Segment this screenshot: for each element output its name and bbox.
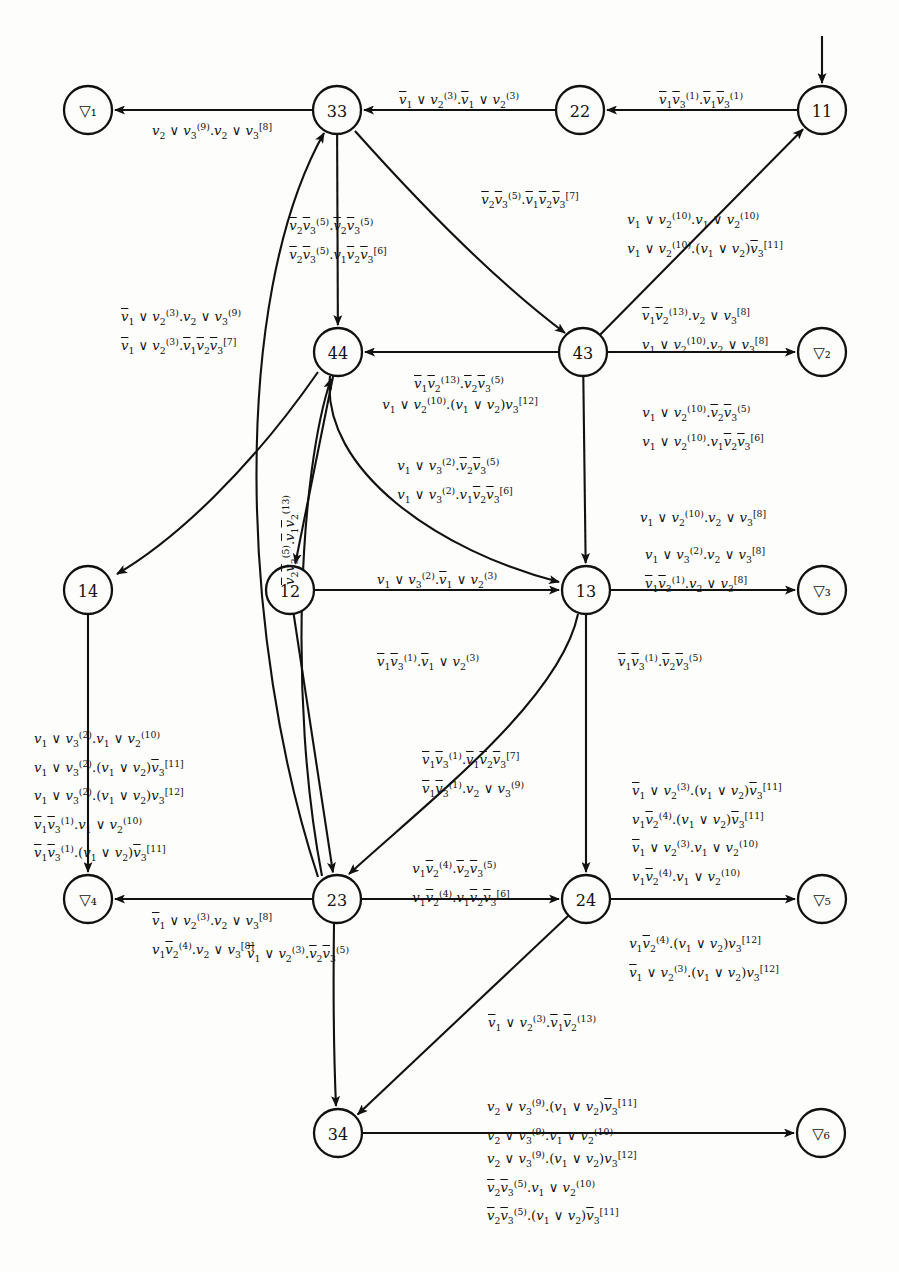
node-T3[interactable]: ▽₃	[798, 566, 846, 614]
label-line: v2v3(5).v1v2v3[7]	[481, 186, 578, 215]
label-line: v1 ∨ v2(3).v2v3(5)	[247, 940, 349, 969]
node-label: ▽₂	[813, 344, 831, 362]
label-edge-23-24: v1v2(4).v2v3(5)v1v2(4).v1v2v3[6]	[412, 855, 509, 912]
node-33[interactable]: 33	[313, 86, 361, 134]
label-line: v1 ∨ v3(2).(v1 ∨ v2)v3[12]	[34, 782, 184, 811]
label-line: v1 ∨ v3(2).v2v3(5)	[397, 452, 512, 481]
label-line: v1 ∨ v2(10).(v1 ∨ v2)v3[12]	[382, 391, 538, 420]
label-edge-13-23: v1v3(1).v1v2v3[7]v1v3(1).v2 ∨ v3(9)	[422, 746, 524, 803]
label-edge-23-34: v1 ∨ v2(3).v2v3(5)	[247, 940, 349, 969]
node-T6[interactable]: ▽₆	[797, 1109, 845, 1157]
label-line: v1v2(4).(v1 ∨ v2)v3[11]	[632, 806, 782, 835]
label-line: v1v3(1).v2 ∨ v3[8]	[645, 570, 765, 599]
label-line: v1 ∨ v2(3).v2 ∨ v3(9)	[121, 303, 241, 332]
node-label: 11	[812, 102, 832, 121]
label-line: v1 ∨ v3(2).v1v2v3[6]	[397, 481, 512, 510]
edge-12-23[interactable]	[294, 614, 333, 873]
label-line: v1 ∨ v2(3).(v1 ∨ v2)v3[11]	[632, 777, 782, 806]
label-edge-34-t6-upper: v2 ∨ v3(9).(v1 ∨ v2)v3[11]v2 ∨ v3(9).v1 …	[487, 1093, 637, 1150]
label-line: v1v3(1).v1v3(1)	[659, 86, 743, 115]
node-label: 33	[327, 102, 347, 121]
node-43[interactable]: 43	[559, 328, 607, 376]
label-edge-23-44: v1 ∨ v2(10).(v1 ∨ v2)v3[12]	[382, 391, 538, 420]
label-edge-11-22: v1v3(1).v1v3(1)	[659, 86, 743, 115]
label-edge-43-11: v1 ∨ v2(10).v1 ∨ v2(10)v1 ∨ v2(10).(v1 ∨…	[627, 206, 783, 263]
label-edge-43-13-upper: v1 ∨ v2(10).v2v3(5)v1 ∨ v2(10).v1v2v3[6]	[642, 399, 763, 456]
label-line: v1 ∨ v2(3).(v1 ∨ v2)v3[12]	[629, 959, 779, 988]
label-line: v1v2(4).v2v3(5)	[412, 855, 509, 884]
label-line: v1 ∨ v2(3).v1v2(13)	[488, 1009, 596, 1038]
node-13[interactable]: 13	[562, 566, 610, 614]
node-44[interactable]: 44	[314, 328, 362, 376]
label-edge-23-44-rotated: v2v3(5).v1v2(13)	[276, 495, 305, 585]
label-line: v1 ∨ v2(3).v2 ∨ v3[8]	[152, 907, 272, 936]
label-line: v1 ∨ v2(10).v1v2v3[6]	[642, 428, 763, 457]
node-T1[interactable]: ▽₁	[64, 86, 112, 134]
node-label: 24	[576, 891, 596, 910]
label-line: v2 ∨ v3(9).(v1 ∨ v2)v3[12]	[487, 1145, 637, 1174]
label-edge-34-t6-lower: v2 ∨ v3(9).(v1 ∨ v2)v3[12]v2v3(5).v1 ∨ v…	[487, 1145, 637, 1231]
node-T4[interactable]: ▽₄	[64, 875, 112, 923]
label-line: v2 ∨ v3(9).(v1 ∨ v2)v3[11]	[487, 1093, 637, 1122]
edge-43-13[interactable]	[583, 376, 585, 563]
label-line: v2v3(5).v2v3(5)	[289, 212, 386, 241]
label-line: v1 ∨ v2(3).v1 ∨ v2(10)	[632, 834, 782, 863]
label-line: v1 ∨ v3(2).v1 ∨ v2(10)	[34, 725, 184, 754]
label-line: v1v3(1).(v1 ∨ v2)v3[11]	[34, 839, 184, 868]
label-line: v1 ∨ v3(2).v1 ∨ v2(3)	[377, 566, 497, 595]
label-edge-33-44: v2v3(5).v2v3(5)v2v3(5).v1v2v3[6]	[289, 212, 386, 269]
label-line: v1v3(1).v2v3(5)	[618, 648, 702, 677]
label-line: v1v3(1).v1 ∨ v2(3)	[377, 648, 479, 677]
node-label: 14	[78, 582, 98, 601]
node-23[interactable]: 23	[313, 875, 361, 923]
label-edge-33-43: v2v3(5).v1v2v3[7]	[481, 186, 578, 215]
label-edge-43-t2: v1v2(13).v2 ∨ v3[8]v1 ∨ v2(10).v2 ∨ v3[8…	[642, 302, 768, 359]
node-label: 13	[576, 582, 596, 601]
label-edge-13-t3: v1 ∨ v3(2).v2 ∨ v3[8]v1v3(1).v2 ∨ v3[8]	[645, 541, 765, 598]
label-line: v1 ∨ v2(3).v1v2v3[7]	[121, 332, 241, 361]
node-label: ▽₁	[79, 102, 97, 120]
label-line: v1v3(1).v2 ∨ v3(9)	[422, 775, 524, 804]
node-14[interactable]: 14	[64, 566, 112, 614]
label-line: v1 ∨ v2(3).v1 ∨ v2(3)	[399, 86, 519, 115]
node-label: 44	[328, 344, 348, 363]
label-edge-12-23: v1v3(1).v1 ∨ v2(3)	[377, 648, 479, 677]
label-edge-22-33: v1 ∨ v2(3).v1 ∨ v2(3)	[399, 86, 519, 115]
node-24[interactable]: 24	[562, 875, 610, 923]
node-11[interactable]: 11	[798, 86, 846, 134]
label-line: v1v3(1).v1v2v3[7]	[422, 746, 524, 775]
label-edge-12-13: v1 ∨ v3(2).v1 ∨ v2(3)	[377, 566, 497, 595]
node-label: 22	[570, 102, 590, 121]
label-line: v2v3(5).(v1 ∨ v2)v3[11]	[487, 1202, 637, 1231]
edge-23-44[interactable]	[302, 379, 331, 876]
label-line: v1 ∨ v2(10).v1 ∨ v2(10)	[627, 206, 783, 235]
label-line: v1 ∨ v2(10).v2 ∨ v3[8]	[642, 331, 768, 360]
label-line: v1v2(4).v1v2v3[6]	[412, 884, 509, 913]
label-edge-14-t4: v1 ∨ v3(2).v1 ∨ v2(10)v1 ∨ v3(2).(v1 ∨ v…	[34, 725, 184, 868]
label-line: v1 ∨ v3(2).(v1 ∨ v2)v3[11]	[34, 754, 184, 783]
label-line: v2v3(5).v1 ∨ v2(10)	[487, 1174, 637, 1203]
label-edge-33-t1: v2 ∨ v3(9).v2 ∨ v3[8]	[152, 117, 272, 146]
label-line: v1 ∨ v2(10).v2v3(5)	[642, 399, 763, 428]
label-line: v1v2(4).v1 ∨ v2(10)	[632, 863, 782, 892]
label-line: v2 ∨ v3(9).v2 ∨ v3[8]	[152, 117, 272, 146]
automaton-diagram: 1122334443141213232434▽₁▽₂▽₃▽₄▽₅▽₆	[0, 0, 899, 1272]
node-label: ▽₃	[813, 582, 831, 600]
node-T5[interactable]: ▽₅	[798, 875, 846, 923]
label-edge-44-13: v1 ∨ v3(2).v2v3(5)v1 ∨ v3(2).v1v2v3[6]	[397, 452, 512, 509]
label-line: v1 ∨ v3(2).v2 ∨ v3[8]	[645, 541, 765, 570]
label-line: v2v3(5).v1v2v3[6]	[289, 241, 386, 270]
label-line: v1v3(1).v1 ∨ v2(10)	[34, 811, 184, 840]
node-label: ▽₅	[813, 891, 831, 909]
node-label: 34	[328, 1125, 348, 1144]
label-line: v2v3(5).v1v2(13)	[276, 495, 305, 585]
label-edge-43-13-lower: v1 ∨ v2(10).v2 ∨ v3[8]	[640, 504, 766, 533]
node-label: ▽₆	[812, 1125, 830, 1143]
node-22[interactable]: 22	[556, 86, 604, 134]
node-label: ▽₄	[79, 891, 97, 909]
node-T2[interactable]: ▽₂	[798, 328, 846, 376]
node-34[interactable]: 34	[314, 1109, 362, 1157]
node-label: 23	[327, 891, 347, 910]
label-line: v1v2(4).(v1 ∨ v2)v3[12]	[629, 930, 779, 959]
label-line: v1v2(13).v2 ∨ v3[8]	[642, 302, 768, 331]
